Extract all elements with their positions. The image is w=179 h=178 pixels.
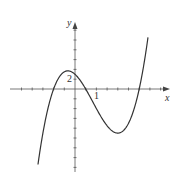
curve-line: [38, 37, 148, 164]
x-tick-label-1: 1: [94, 91, 99, 101]
x-axis-arrow-icon: [163, 87, 170, 92]
x-axis: [10, 87, 170, 92]
y-axis: [73, 22, 78, 172]
y-axis-label: y: [67, 18, 71, 28]
y-tick-label-2: 2: [67, 74, 72, 84]
x-axis-label: x: [165, 93, 169, 103]
y-axis-arrow-icon: [73, 22, 78, 29]
cubic-function-graph: [0, 0, 179, 178]
